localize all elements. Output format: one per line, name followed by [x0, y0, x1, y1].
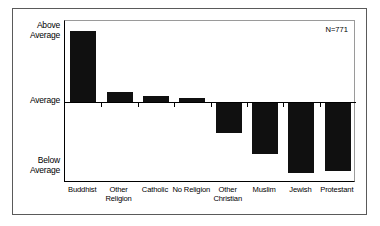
- x-axis-tick: [211, 103, 212, 107]
- x-axis-labels: BuddhistOther ReligionCatholicNo Religio…: [64, 185, 355, 213]
- bar: [216, 103, 242, 133]
- x-axis-tick: [138, 103, 139, 107]
- x-axis-tick: [174, 103, 175, 107]
- bar: [70, 31, 96, 102]
- bar: [325, 103, 351, 171]
- x-axis-tick: [247, 103, 248, 107]
- chart-figure: Above Average Average Below Average N=77…: [0, 0, 380, 226]
- y-tick-label-average: Average: [8, 96, 60, 106]
- bar-series: [65, 21, 356, 183]
- bar: [143, 96, 169, 102]
- y-tick-label-above-average: Above Average: [8, 21, 60, 40]
- sample-size-annotation: N=771: [325, 25, 348, 34]
- bar: [107, 92, 133, 102]
- x-axis-tick: [320, 103, 321, 107]
- y-axis-labels: Above Average Average Below Average: [12, 8, 64, 215]
- bar: [288, 103, 314, 173]
- plot-area: N=771: [64, 20, 355, 182]
- y-tick-label-below-average: Below Average: [8, 156, 60, 175]
- x-axis-tick: [283, 103, 284, 107]
- x-tick-label: Protestant: [315, 185, 359, 194]
- x-axis-tick: [101, 103, 102, 107]
- bar: [252, 103, 278, 154]
- bar: [179, 98, 205, 102]
